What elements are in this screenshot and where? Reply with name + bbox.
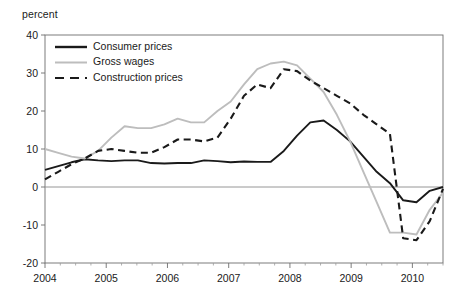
legend-label-consumer-prices: Consumer prices <box>93 40 172 52</box>
chart-series-group <box>45 62 443 241</box>
x-tick-label: 2008 <box>278 272 302 284</box>
y-tick-label: -20 <box>23 257 38 269</box>
chart-legend: Consumer pricesGross wagesConstruction p… <box>55 40 183 83</box>
line-chart: 403020100-10-202004200520062007200820092… <box>0 0 464 302</box>
x-tick-label: 2010 <box>401 272 425 284</box>
chart-container: percent 403020100-10-2020042005200620072… <box>0 0 464 302</box>
y-tick-label: -10 <box>23 219 38 231</box>
chart-axes: 403020100-10-202004200520062007200820092… <box>23 29 443 284</box>
x-tick-label: 2005 <box>95 272 119 284</box>
y-tick-label: 10 <box>26 143 38 155</box>
legend-label-gross-wages: Gross wages <box>93 55 154 67</box>
y-tick-label: 20 <box>26 105 38 117</box>
x-tick-label: 2004 <box>33 272 57 284</box>
series-line-gross-wages <box>45 62 443 235</box>
legend-label-construction-prices: Construction prices <box>93 71 183 83</box>
y-tick-label: 30 <box>26 67 38 79</box>
series-line-construction-prices <box>45 69 443 240</box>
x-tick-label: 2009 <box>339 272 363 284</box>
x-tick-label: 2007 <box>217 272 241 284</box>
series-line-consumer-prices <box>45 121 443 203</box>
y-tick-label: 40 <box>26 29 38 41</box>
x-tick-label: 2006 <box>156 272 180 284</box>
y-tick-label: 0 <box>32 181 38 193</box>
